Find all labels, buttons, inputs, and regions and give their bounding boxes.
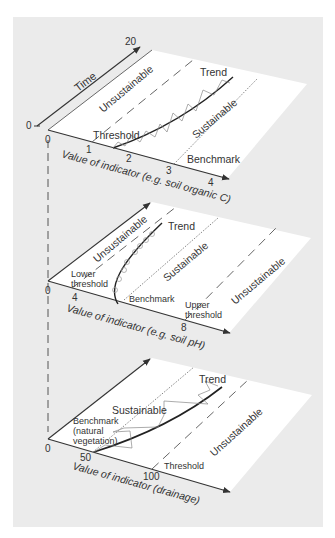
bottom-threshold-label: Threshold [164,461,204,471]
top-threshold-label: Threshold [93,129,140,141]
time-axis-start: 0 [26,120,32,131]
middle-tick-8: 8 [181,322,187,333]
bottom-benchmark-label-line1: Benchmark [73,416,119,426]
middle-benchmark-label: Benchmark [129,294,175,304]
bottom-benchmark-label-line2: (natural [73,426,104,436]
middle-trend-label: Trend [168,220,195,232]
top-tick-2: 2 [126,153,132,164]
bottom-benchmark-label-line3: vegetation) [73,436,118,446]
bottom-tick-0: 0 [45,443,51,454]
sustainability-indicator-diagram: 0 20 Time 0 1 2 3 4 Value of indicator (… [0,0,335,538]
middle-lower-threshold-label-line1: Lower [71,269,96,279]
top-tick-3: 3 [166,165,172,176]
top-tick-0: 0 [45,134,51,145]
middle-tick-4: 4 [72,292,78,303]
bottom-trend-label: Trend [199,373,226,385]
middle-upper-threshold-label-line1: Upper [185,300,210,310]
top-benchmark-label: Benchmark [187,153,241,165]
middle-lower-threshold-label-line2: threshold [71,279,108,289]
top-trend-label: Trend [200,66,227,78]
diagram-canvas: 0 20 Time 0 1 2 3 4 Value of indicator (… [0,0,335,538]
time-axis-end: 20 [125,36,137,47]
bottom-zone-sustainable: Sustainable [112,404,167,416]
middle-upper-threshold-label-line2: threshold [185,310,222,320]
middle-tick-0: 0 [45,285,51,296]
